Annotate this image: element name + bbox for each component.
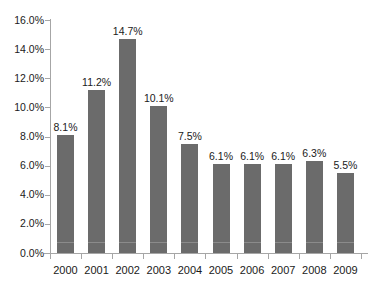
x-axis-tick: [299, 254, 300, 259]
bar-chart: 16.0%14.0%12.0%10.0%8.0%6.0%4.0%2.0%0.0%…: [0, 0, 377, 285]
x-axis-tick: [112, 254, 113, 259]
bar: [88, 90, 105, 253]
y-axis-tick: [45, 195, 51, 196]
bar: [57, 135, 74, 253]
x-axis-tick: [143, 254, 144, 259]
x-axis-tick: [50, 254, 51, 259]
x-axis-tick: [237, 254, 238, 259]
y-axis-tick: [45, 224, 51, 225]
bar: [244, 164, 261, 253]
y-axis-tick-label: 6.0%: [2, 160, 44, 171]
bar-value-label: 5.5%: [323, 159, 367, 171]
y-axis-tick-label: 4.0%: [2, 189, 44, 200]
x-axis-tick: [174, 254, 175, 259]
y-axis-tick-label: 8.0%: [2, 131, 44, 142]
y-axis-tick: [45, 49, 51, 50]
bar: [306, 161, 323, 253]
y-axis-tick: [45, 78, 51, 79]
bar-value-label: 14.7%: [106, 25, 150, 37]
x-axis-tick: [330, 254, 331, 259]
x-axis-tick: [81, 254, 82, 259]
y-axis-tick-label: 16.0%: [2, 15, 44, 26]
x-axis-line: [44, 253, 368, 254]
y-axis-tick-label: 14.0%: [2, 44, 44, 55]
x-axis-tick: [268, 254, 269, 259]
y-axis-tick: [45, 20, 51, 21]
x-axis-tick-label: 2009: [323, 264, 367, 276]
y-axis-tick-label: 12.0%: [2, 73, 44, 84]
bar: [119, 39, 136, 253]
chart-title: [60, 0, 360, 2]
y-axis-tick: [45, 166, 51, 167]
bar: [213, 164, 230, 253]
bar-value-label: 8.1%: [44, 121, 88, 133]
bar: [150, 106, 167, 253]
y-axis-tick-label: 0.0%: [2, 248, 44, 259]
bar: [275, 164, 292, 253]
bar-value-label: 11.2%: [75, 76, 119, 88]
bar: [181, 144, 198, 253]
x-axis-tick: [361, 254, 362, 259]
y-axis-tick-label: 2.0%: [2, 218, 44, 229]
y-axis-tick: [45, 107, 51, 108]
y-axis-tick: [45, 137, 51, 138]
x-axis-tick: [205, 254, 206, 259]
bar-value-label: 10.1%: [137, 92, 181, 104]
bar-value-label: 7.5%: [168, 130, 212, 142]
y-axis-tick-label: 10.0%: [2, 102, 44, 113]
bar: [337, 173, 354, 253]
bar-value-label: 6.3%: [292, 147, 336, 159]
